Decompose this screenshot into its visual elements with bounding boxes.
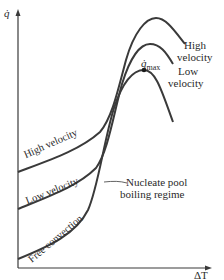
y-axis-label: q̇ xyxy=(4,7,10,19)
label-low-velocity-line2: velocity xyxy=(168,78,203,89)
label-high-velocity-line1: High xyxy=(184,40,206,51)
x-axis-label: ΔT xyxy=(194,269,208,280)
label-nucleate-line1: Nucleate pool xyxy=(126,177,187,188)
label-qmax: q̇max xyxy=(141,58,160,73)
label-low-velocity-line1: Low xyxy=(178,66,198,77)
label-nucleate-line2: boiling regime xyxy=(120,189,184,200)
qmax-subscript: max xyxy=(147,63,161,72)
y-axis-arrow-icon xyxy=(16,9,21,16)
curve-free-convection xyxy=(18,70,173,259)
label-high-velocity-line2: velocity xyxy=(177,52,212,63)
nucleate-leader-line xyxy=(104,181,127,183)
